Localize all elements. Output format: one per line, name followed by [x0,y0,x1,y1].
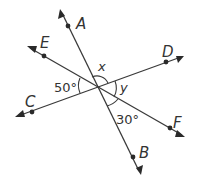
point-a-dot [66,24,71,29]
point-e-dot [42,54,47,59]
label-e: E [40,34,50,52]
angle-arc-50 [78,78,80,93]
label-d: D [162,43,174,61]
arrow-head-d [176,56,184,63]
arrow-head-c [15,110,25,117]
angle-label-30: 30° [116,112,139,127]
angle-label-y: y [119,80,128,95]
arrow-head-e [27,46,37,53]
geometry-diagram: A B C D E F 50° x y 30° [0,0,206,190]
angle-label-x: x [97,59,106,74]
angle-arc-y [114,81,116,97]
point-f-dot [168,126,173,131]
label-f: F [173,114,182,132]
label-b: B [139,144,149,162]
angle-arc-30 [107,99,118,106]
point-b-dot [131,155,136,160]
angle-label-50: 50° [54,80,77,95]
label-c: C [25,93,36,111]
label-a: A [75,15,86,33]
